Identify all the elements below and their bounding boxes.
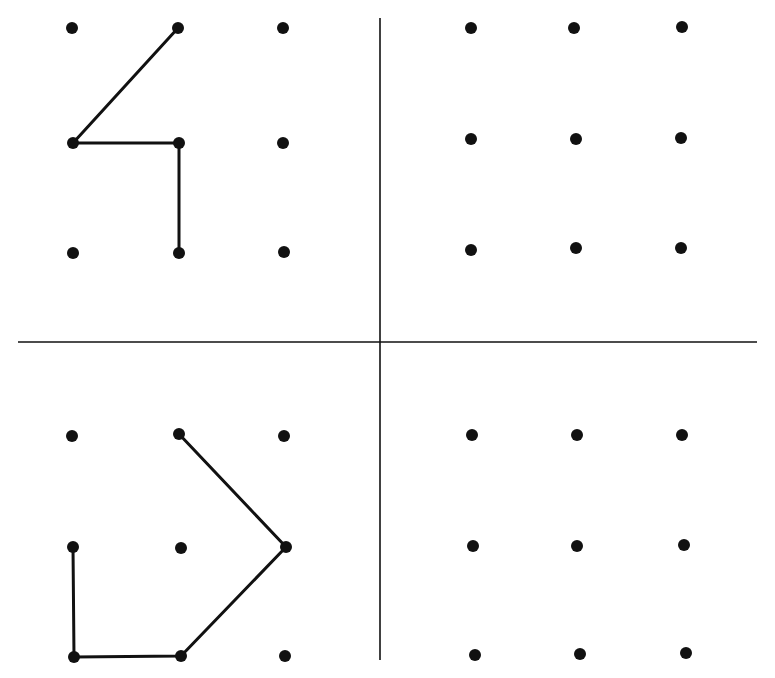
grid-dot — [172, 22, 184, 34]
grid-dot — [277, 22, 289, 34]
grid-dot — [467, 540, 479, 552]
dot-grid — [466, 429, 692, 661]
grid-dot — [469, 649, 481, 661]
grid-dot — [173, 247, 185, 259]
dot-grid — [465, 21, 688, 256]
dot-grid — [66, 428, 292, 663]
grid-dot — [175, 650, 187, 662]
grid-dot — [570, 133, 582, 145]
grid-dot — [175, 542, 187, 554]
quadrant-top-right — [465, 21, 688, 256]
grid-dot — [280, 541, 292, 553]
diagram-svg — [0, 0, 775, 678]
figure-path — [73, 28, 179, 253]
grid-dot — [67, 247, 79, 259]
grid-dot — [678, 539, 690, 551]
grid-dot — [465, 244, 477, 256]
grid-dot — [68, 651, 80, 663]
figure-line — [73, 28, 179, 253]
grid-dot — [277, 137, 289, 149]
dot-grid-diagram — [0, 0, 775, 678]
grid-dot — [67, 541, 79, 553]
grid-dot — [676, 429, 688, 441]
grid-dot — [173, 137, 185, 149]
grid-dot — [570, 242, 582, 254]
grid-dot — [66, 430, 78, 442]
quadrant-top-left — [66, 22, 290, 259]
grid-dot — [571, 429, 583, 441]
quadrant-dividers — [18, 18, 757, 660]
grid-dot — [675, 242, 687, 254]
grid-dot — [676, 21, 688, 33]
grid-dot — [278, 430, 290, 442]
grid-dot — [675, 132, 687, 144]
grid-dot — [279, 650, 291, 662]
grid-dot — [67, 137, 79, 149]
grid-dot — [173, 428, 185, 440]
quadrant-bottom-left — [66, 428, 292, 663]
grid-dot — [465, 133, 477, 145]
grid-dot — [568, 22, 580, 34]
grid-dot — [466, 429, 478, 441]
grid-dot — [680, 647, 692, 659]
grid-dot — [465, 22, 477, 34]
grid-dot — [571, 540, 583, 552]
quadrant-bottom-right — [466, 429, 692, 661]
grid-dot — [278, 246, 290, 258]
grid-dot — [574, 648, 586, 660]
grid-dot — [66, 22, 78, 34]
